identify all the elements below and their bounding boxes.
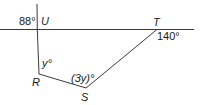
segment-ST — [86, 30, 157, 89]
point-label-T: T — [153, 17, 160, 28]
angle-label-3y: (3y)° — [71, 73, 94, 84]
polygon-angle-diagram: 88° U T 140° y° R (3y)° S — [0, 0, 206, 105]
point-label-S: S — [81, 92, 88, 103]
segment-UR — [37, 30, 39, 75]
angle-label-88: 88° — [19, 16, 36, 27]
point-label-U: U — [41, 16, 49, 27]
angle-label-140: 140° — [157, 31, 180, 42]
point-label-R: R — [32, 77, 40, 88]
angle-label-y: y° — [42, 58, 52, 69]
